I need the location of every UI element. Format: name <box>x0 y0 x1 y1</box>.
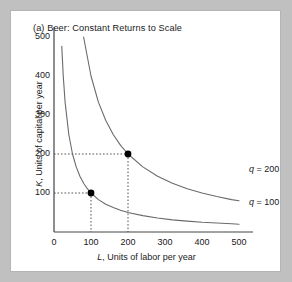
y-tick-label-300: 300 <box>20 109 50 119</box>
curve-label-q-100: q = 100 <box>249 197 279 207</box>
y-tick-label-200: 200 <box>20 148 50 158</box>
curve-label-value: = 200 <box>254 164 279 174</box>
x-tick-label-200: 200 <box>113 237 143 247</box>
isoquant-curve-q-100 <box>62 46 239 224</box>
y-tick-label-100: 100 <box>20 187 50 197</box>
x-tick-label-400: 400 <box>187 237 217 247</box>
x-tick-label-0: 0 <box>39 237 69 247</box>
y-tick-label-500: 500 <box>20 31 50 41</box>
curve-label-value: = 100 <box>254 197 279 207</box>
isoquant-curve-q-200 <box>84 37 239 201</box>
curve-label-q-200: q = 200 <box>249 164 279 174</box>
x-tick-label-100: 100 <box>76 237 106 247</box>
point-q100 <box>88 190 95 197</box>
chart-plot-area <box>11 11 281 272</box>
x-tick-label-300: 300 <box>150 237 180 247</box>
x-tick-label-500: 500 <box>224 237 254 247</box>
point-q200 <box>125 151 132 158</box>
y-tick-label-400: 400 <box>20 70 50 80</box>
chart-panel: (a) Beer: Constant Returns to Scale K, U… <box>10 10 281 272</box>
